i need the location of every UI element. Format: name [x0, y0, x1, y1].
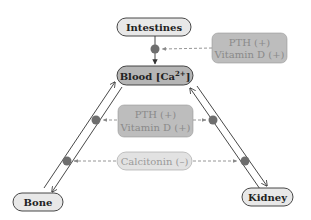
- blood-to-kidney-line: [197, 86, 267, 186]
- bone-node: Bone: [13, 193, 63, 211]
- blood-to-bone-line: [52, 87, 122, 192]
- top-regulator-arrow: [162, 48, 212, 49]
- kidney-calcitonin-regulation-dot: [241, 157, 250, 166]
- blood-superscript: 2+: [175, 69, 186, 78]
- middle-regulator-box: PTH (+) Vitamin D (+): [118, 105, 193, 137]
- bone-pth-regulation-dot: [92, 116, 101, 125]
- top-regulator-box: PTH (+) Vitamin D (+): [212, 33, 287, 63]
- bone-calcitonin-regulation-dot: [63, 157, 72, 166]
- calcium-regulation-diagram: Intestines PTH (+) Vitamin D (+) Blood […: [0, 0, 311, 220]
- calcitonin-label: Calcitonin (–): [121, 156, 189, 167]
- blood-kidney-transport: [190, 86, 267, 189]
- bone-to-blood-line: [44, 82, 115, 188]
- intestine-regulation-dot: [151, 45, 160, 54]
- top-regulator-pth: PTH (+): [229, 37, 271, 48]
- intestines-node: Intestines: [117, 18, 191, 36]
- kidney-pth-regulation-dot: [209, 116, 218, 125]
- blood-close-bracket: ]: [186, 71, 191, 82]
- kidney-node: Kidney: [242, 188, 293, 206]
- middle-regulator-vitamin-d: Vitamin D (+): [120, 122, 191, 133]
- top-regulator-vitamin-d: Vitamin D (+): [214, 49, 285, 60]
- blood-node: Blood [Ca2+]: [117, 66, 193, 85]
- intestines-label: Intestines: [126, 22, 183, 33]
- bone-blood-transport: [44, 82, 122, 192]
- bone-label: Bone: [24, 197, 53, 208]
- kidney-to-blood-line: [190, 88, 260, 189]
- blood-label: Blood [Ca: [120, 71, 176, 82]
- calcitonin-box: Calcitonin (–): [117, 152, 192, 170]
- kidney-label: Kidney: [248, 192, 288, 203]
- middle-regulator-pth: PTH (+): [135, 109, 177, 120]
